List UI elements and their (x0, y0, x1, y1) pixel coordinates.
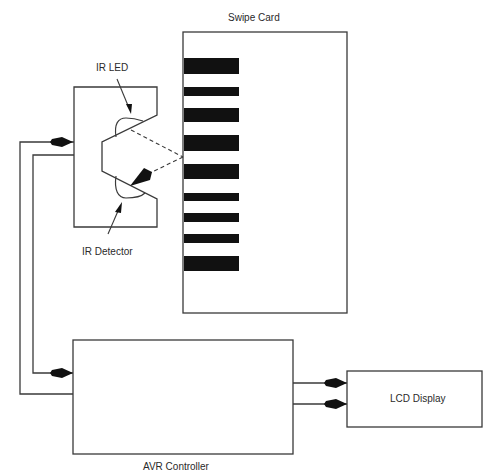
light-path-emit (131, 130, 183, 157)
barcode-bar (184, 164, 239, 179)
swipe-card-label: Swipe Card (228, 12, 280, 23)
barcode-bar (184, 193, 239, 201)
reflected-light-arrow-icon (130, 168, 152, 186)
arrow-into-lcd-1-icon (324, 378, 347, 388)
avr-controller-box (73, 340, 293, 454)
barcode-bar (184, 58, 239, 74)
barcode-bar (184, 108, 239, 122)
wire-sensor-to-avr (33, 155, 74, 373)
arrow-into-avr-icon (50, 368, 73, 378)
ir-led-leader (117, 79, 129, 108)
arrow-into-lcd-2-icon (324, 399, 347, 409)
ir-detector-leader-arrow-icon (115, 202, 122, 213)
wire-avr-to-sensor (20, 142, 74, 394)
lcd-display-label: LCD Display (390, 393, 446, 404)
barcode-bar (184, 213, 239, 222)
ir-sensor-housing (74, 87, 157, 227)
ir-led-label: IR LED (96, 62, 128, 73)
barcode-bar (184, 87, 239, 96)
barcode-bar (184, 256, 239, 271)
ir-led-leader-arrow-icon (126, 104, 132, 114)
arrow-into-sensor-icon (50, 137, 73, 147)
barcode-bars (184, 58, 239, 271)
barcode-bar (184, 234, 239, 243)
light-path-reflect (150, 157, 183, 173)
ir-detector-leader (108, 211, 118, 234)
ir-detector-label: IR Detector (82, 246, 133, 257)
barcode-bar (184, 135, 239, 151)
avr-controller-label: AVR Controller (143, 461, 209, 472)
